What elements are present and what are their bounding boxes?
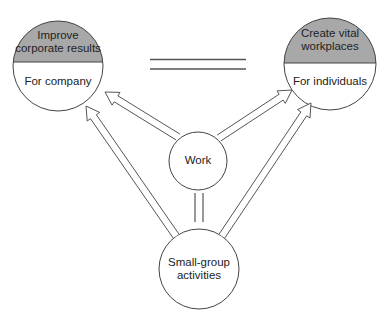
equal-sign-horizontal [150, 60, 246, 70]
right-goal-subtitle: For individuals [293, 75, 367, 88]
right-goal-title: Create vital workplaces [301, 27, 359, 53]
left-goal-title-line2: corporate results [15, 42, 101, 55]
left-goal-subtitle: For company [24, 75, 91, 88]
right-goal-title-line1: Create vital [301, 27, 359, 40]
arrow-work-to-right-goal [217, 90, 292, 141]
arrow-work-to-left-goal [105, 92, 180, 140]
equal-sign-vertical [195, 193, 203, 222]
small-group-label-line2: activities [168, 269, 230, 282]
right-goal-title-line2: workplaces [301, 40, 359, 53]
arrow-small-group-to-right-goal [219, 103, 311, 238]
small-group-label: Small-group activities [168, 256, 230, 282]
small-group-label-line1: Small-group [168, 256, 230, 269]
left-goal-title: Improve corporate results [15, 29, 101, 55]
work-label: Work [185, 154, 212, 167]
left-goal-title-line1: Improve [15, 29, 101, 42]
